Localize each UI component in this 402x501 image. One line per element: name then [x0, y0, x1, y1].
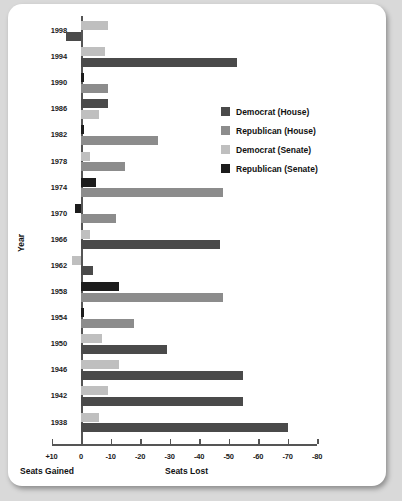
legend-item-democrathouse: Democrat (House)	[221, 102, 371, 121]
x-axis-tick	[52, 439, 54, 444]
bar-1958-republicansenate	[81, 282, 119, 291]
chart-card: Year +100-10-20-30-40-50-60-70-80 199819…	[8, 4, 386, 486]
bar-1950-democratsenate	[81, 334, 102, 343]
bar-1942-democrathouse	[81, 397, 243, 406]
legend-swatch-icon	[221, 126, 230, 135]
bar-1942-democratsenate	[81, 386, 108, 395]
x-axis-tick	[170, 439, 172, 444]
year-label-1946: 1946	[33, 365, 67, 374]
x-axis-tick-label: -50	[223, 452, 233, 461]
bar-1994-democrathouse	[81, 58, 237, 67]
legend-item-republicansenate: Republican (Senate)	[221, 159, 371, 178]
bar-1970-republicanhouse	[81, 214, 116, 223]
x-axis-tick-label: -60	[253, 452, 263, 461]
bar-1950-democrathouse	[81, 345, 167, 354]
x-axis-tick-label: -40	[194, 452, 204, 461]
bar-1986-democrathouse	[81, 99, 108, 108]
year-label-1950: 1950	[33, 339, 67, 348]
legend-swatch-icon	[221, 164, 230, 173]
year-label-1958: 1958	[33, 287, 67, 296]
x-axis-tick	[140, 439, 142, 444]
bar-1990-republicansenate	[81, 73, 84, 82]
bar-1938-democrathouse	[81, 423, 288, 432]
year-label-1942: 1942	[33, 391, 67, 400]
x-axis-tick-label: -30	[164, 452, 174, 461]
legend-label: Democrat (House)	[236, 107, 309, 117]
year-label-1998: 1998	[33, 26, 67, 35]
x-axis-tick-label: -70	[282, 452, 292, 461]
bar-1966-democratsenate	[81, 230, 90, 239]
chart-legend: Democrat (House)Republican (House)Democr…	[221, 102, 371, 178]
x-axis-tick	[111, 439, 113, 444]
bar-1982-republicansenate	[81, 125, 84, 134]
x-axis-tick-label: +10	[45, 452, 57, 461]
x-axis-tick-label: 0	[79, 452, 83, 461]
year-label-1966: 1966	[33, 235, 67, 244]
x-axis-tick	[317, 439, 319, 444]
x-axis-tick-label: -80	[312, 452, 322, 461]
bar-1982-republicanhouse	[81, 136, 158, 145]
x-axis-tick-label: -10	[105, 452, 115, 461]
x-axis-tick	[288, 439, 290, 444]
bar-1962-democrathouse	[81, 266, 93, 275]
bar-1998-democrathouse	[66, 32, 81, 41]
year-label-1990: 1990	[33, 78, 67, 87]
year-label-1970: 1970	[33, 209, 67, 218]
bar-1974-republicansenate	[81, 178, 96, 187]
bar-1962-democratsenate	[72, 256, 81, 265]
year-label-1994: 1994	[33, 52, 67, 61]
legend-label: Democrat (Senate)	[236, 145, 311, 155]
x-axis-line	[52, 444, 318, 446]
legend-label: Republican (House)	[236, 126, 316, 136]
x-axis-tick	[81, 439, 83, 444]
legend-label: Republican (Senate)	[236, 164, 318, 174]
bar-1938-democratsenate	[81, 413, 99, 422]
x-axis-title-left: Seats Gained	[20, 466, 74, 476]
year-label-1954: 1954	[33, 313, 67, 322]
bar-1978-republicanhouse	[81, 162, 125, 171]
x-axis-tick	[199, 439, 201, 444]
legend-swatch-icon	[221, 107, 230, 116]
year-label-1978: 1978	[33, 157, 67, 166]
bar-1978-democratsenate	[81, 152, 90, 161]
bar-1954-republicansenate	[81, 308, 84, 317]
x-axis-tick	[229, 439, 231, 444]
bar-1970-republicansenate	[75, 204, 81, 213]
bar-1990-republicanhouse	[81, 84, 108, 93]
year-label-1938: 1938	[33, 418, 67, 427]
x-axis-tick	[258, 439, 260, 444]
legend-item-republicanhouse: Republican (House)	[221, 121, 371, 140]
year-label-1982: 1982	[33, 130, 67, 139]
bar-1998-democratsenate	[81, 21, 108, 30]
year-label-1962: 1962	[33, 261, 67, 270]
legend-item-democratsenate: Democrat (Senate)	[221, 140, 371, 159]
bar-1994-democratsenate	[81, 47, 105, 56]
bar-1946-democrathouse	[81, 371, 243, 380]
bar-1958-republicanhouse	[81, 293, 223, 302]
x-axis-title-right: Seats Lost	[165, 466, 208, 476]
bar-1966-democrathouse	[81, 240, 220, 249]
y-axis-title: Year	[16, 234, 26, 252]
bar-chart: Year +100-10-20-30-40-50-60-70-80 199819…	[8, 4, 386, 486]
bar-1986-democratsenate	[81, 110, 99, 119]
bar-1946-democratsenate	[81, 360, 119, 369]
legend-swatch-icon	[221, 145, 230, 154]
x-axis-tick-label: -20	[135, 452, 145, 461]
year-label-1986: 1986	[33, 104, 67, 113]
bar-1954-republicanhouse	[81, 319, 134, 328]
year-label-1974: 1974	[33, 183, 67, 192]
bar-1974-republicanhouse	[81, 188, 223, 197]
